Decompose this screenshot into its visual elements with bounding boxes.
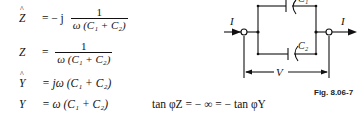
circuit-diagram: I I C₁ C₂ V bbox=[0, 0, 359, 120]
capacitor-top-label: C₁ bbox=[298, 0, 308, 4]
voltage-label: V bbox=[276, 66, 284, 78]
figure-label: Fig. 8.06-7 bbox=[314, 88, 353, 97]
current-out-label: I bbox=[340, 15, 346, 27]
current-in-label: I bbox=[229, 15, 235, 27]
capacitor-bottom-label: C₂ bbox=[298, 40, 309, 51]
